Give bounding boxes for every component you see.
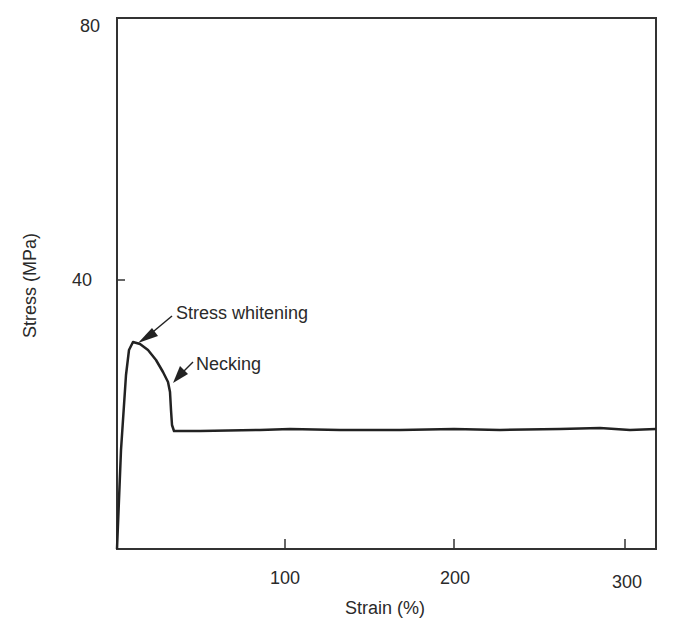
x-tick-label-300: 300	[612, 572, 642, 593]
chart-canvas	[0, 0, 675, 638]
y-tick-label-40: 40	[72, 270, 92, 291]
annotation-stress-whitening: Stress whitening	[176, 303, 308, 324]
plot-frame	[117, 18, 656, 549]
arrow-icon	[173, 362, 193, 383]
annotation-necking: Necking	[196, 354, 261, 375]
y-axis-title: Stress (MPa)	[20, 226, 41, 346]
x-tick-label-200: 200	[440, 568, 470, 589]
y-tick-label-80: 80	[80, 16, 100, 37]
x-axis-title: Strain (%)	[345, 598, 425, 619]
arrow-icon	[138, 316, 172, 343]
x-tick-label-100: 100	[270, 568, 300, 589]
